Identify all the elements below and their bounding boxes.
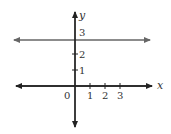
- y-tick-label-1: 1: [79, 65, 85, 76]
- y-tick-label-3: 3: [79, 27, 85, 38]
- y-axis-label: y: [78, 9, 86, 22]
- x-axis-label: x: [157, 79, 164, 92]
- coordinate-plane: x y 0 1 2 3 1 2 3: [0, 0, 171, 134]
- y-tick-label-2: 2: [79, 49, 85, 60]
- x-tick-label-1: 1: [87, 90, 93, 101]
- origin-label: 0: [64, 90, 70, 101]
- x-tick-label-2: 2: [102, 90, 108, 101]
- y-axis: [72, 12, 78, 127]
- x-axis: [16, 83, 152, 89]
- x-tick-label-3: 3: [117, 90, 123, 101]
